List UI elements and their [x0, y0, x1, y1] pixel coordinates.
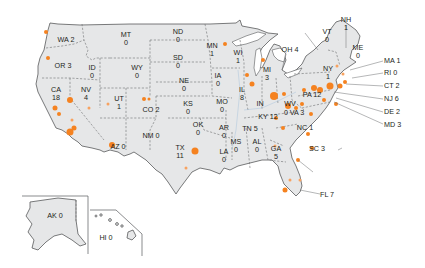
label-la-count: 0	[222, 155, 226, 164]
label-wv-count: 0	[284, 108, 288, 117]
label-tx-count: 11	[176, 151, 183, 160]
label-ia-count: 0	[216, 79, 220, 88]
hawaii-inset	[90, 210, 142, 256]
label-ks-count: 0	[186, 107, 190, 116]
us-map: WA 2 OR 3 CA 18 NV 4 ID 0 MT 0 WY 0 UT 1…	[0, 0, 425, 268]
label-ok-count: 0	[196, 128, 200, 137]
label-wi-count: 1	[236, 56, 240, 65]
label-or: OR 3	[55, 61, 72, 70]
label-tn: TN 5	[242, 124, 258, 133]
label-md: MD 3	[384, 120, 401, 129]
label-va: VA 3	[290, 108, 305, 117]
label-az: AZ 0	[110, 142, 125, 151]
label-wv: WV	[284, 99, 296, 108]
label-ne-count: 0	[182, 84, 186, 93]
label-nm: NM 0	[142, 131, 159, 140]
label-mi-count: 3	[265, 73, 269, 82]
label-sc: SC 3	[309, 144, 325, 153]
label-fl: FL 7	[320, 190, 334, 199]
label-in: IN	[256, 99, 263, 108]
label-il-count: 8	[240, 93, 244, 102]
label-nd-count: 0	[176, 35, 180, 44]
label-nv-count: 4	[84, 93, 88, 102]
label-ga-count: 5	[274, 152, 278, 161]
label-nj: NJ 6	[384, 94, 399, 103]
label-oh: OH 4	[282, 45, 299, 54]
label-ct: CT 2	[384, 81, 399, 90]
label-al-count: 0	[255, 145, 259, 154]
contiguous-us-landmass	[36, 20, 360, 196]
label-wy-count: 0	[135, 71, 139, 80]
label-vt-count: 0	[325, 35, 329, 44]
label-co: CO 2	[143, 105, 160, 114]
label-mn-count: 1	[210, 49, 214, 58]
label-ak: AK 0	[47, 211, 63, 220]
label-ut-count: 1	[117, 102, 121, 111]
label-sd-count: 0	[176, 61, 180, 70]
label-de: DE 2	[384, 107, 400, 116]
label-wa: WA 2	[58, 35, 75, 44]
label-ma: MA 1	[384, 56, 400, 65]
label-ri: RI 0	[384, 68, 397, 77]
label-ky: KY 12	[258, 112, 277, 121]
label-ar-count: 0	[222, 131, 226, 140]
label-ms-count: 0	[234, 145, 238, 154]
label-nc: NC 1	[297, 123, 313, 132]
label-pa: PA 12	[303, 90, 322, 99]
label-mt-count: 0	[124, 38, 128, 47]
alaska-inset	[22, 196, 88, 254]
label-ca-count: 18	[52, 93, 60, 102]
label-nh-count: 1	[344, 23, 348, 32]
label-me-count: 0	[356, 51, 360, 60]
label-id-count: 0	[90, 71, 94, 80]
label-ny-count: 1	[326, 72, 330, 81]
label-hi: HI 0	[99, 233, 112, 242]
label-mo-count: 0	[220, 105, 224, 114]
